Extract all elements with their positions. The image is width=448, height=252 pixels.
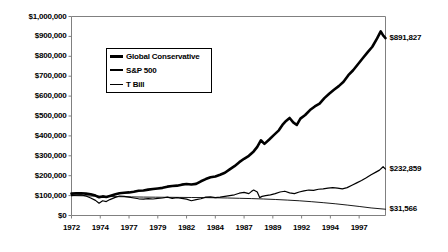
end-value-label: $891,827: [390, 33, 422, 42]
y-tick-label: $400,000: [35, 131, 67, 140]
y-tick-label: $500,000: [35, 111, 67, 120]
legend-item-global-conservative: Global Conservative: [107, 49, 211, 63]
y-tick-label: $100,000: [35, 191, 67, 200]
y-tick-label: $800,000: [35, 51, 67, 60]
end-value-label: $31,566: [390, 204, 418, 213]
series-line-t-bill: [72, 196, 386, 210]
chart-legend: Global Conservative S&P 500 T Bill: [106, 48, 212, 93]
y-tick-label: $600,000: [35, 91, 67, 100]
investment-growth-chart: $1,000,000$900,000$800,000$700,000$600,0…: [0, 0, 448, 252]
plot-area: [0, 0, 448, 252]
y-tick-label: $900,000: [35, 31, 67, 40]
y-tick-label: $1,000,000: [28, 12, 66, 21]
legend-label: T Bill: [126, 80, 144, 89]
y-tick-label: $200,000: [35, 171, 67, 180]
y-axis-ticks: [69, 17, 360, 219]
y-tick-label: $700,000: [35, 71, 67, 80]
line-swatch-icon: [110, 69, 123, 71]
legend-item-tbill: T Bill: [107, 77, 211, 91]
line-swatch-icon: [110, 84, 123, 85]
y-tick-label: $0: [58, 211, 67, 220]
legend-label: Global Conservative: [126, 52, 200, 61]
legend-label: S&P 500: [126, 66, 156, 75]
line-swatch-icon: [110, 55, 123, 58]
y-tick-label: $300,000: [35, 151, 67, 160]
end-value-label: $232,859: [390, 164, 422, 173]
plot-frame: [72, 17, 386, 216]
x-tick-label: 1997: [339, 223, 379, 232]
legend-item-sp500: S&P 500: [107, 63, 211, 77]
